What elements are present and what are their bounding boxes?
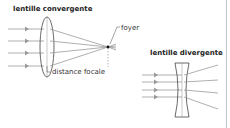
focal-distance-bracket [47, 66, 50, 72]
converging-lens-figure: lentille convergente [8, 5, 139, 77]
focal-distance-label: distance focale [52, 68, 105, 76]
incoming-rays [8, 29, 44, 66]
lens-diagram: lentille convergente [0, 0, 230, 128]
converging-rays [50, 29, 116, 66]
focus-leader-line [110, 27, 117, 44]
diverging-rays [184, 65, 218, 109]
ray-arrow-icons [25, 27, 29, 69]
diverging-ray-arrow-icons [154, 73, 158, 100]
diverging-incoming-rays [142, 75, 182, 97]
focus-point [107, 46, 110, 49]
diverging-lens-figure: lentille divergente [142, 49, 223, 117]
focus-label: foyer [121, 24, 139, 32]
diverging-lens-title: lentille divergente [150, 49, 223, 57]
converging-lens-title: lentille convergente [13, 5, 93, 13]
